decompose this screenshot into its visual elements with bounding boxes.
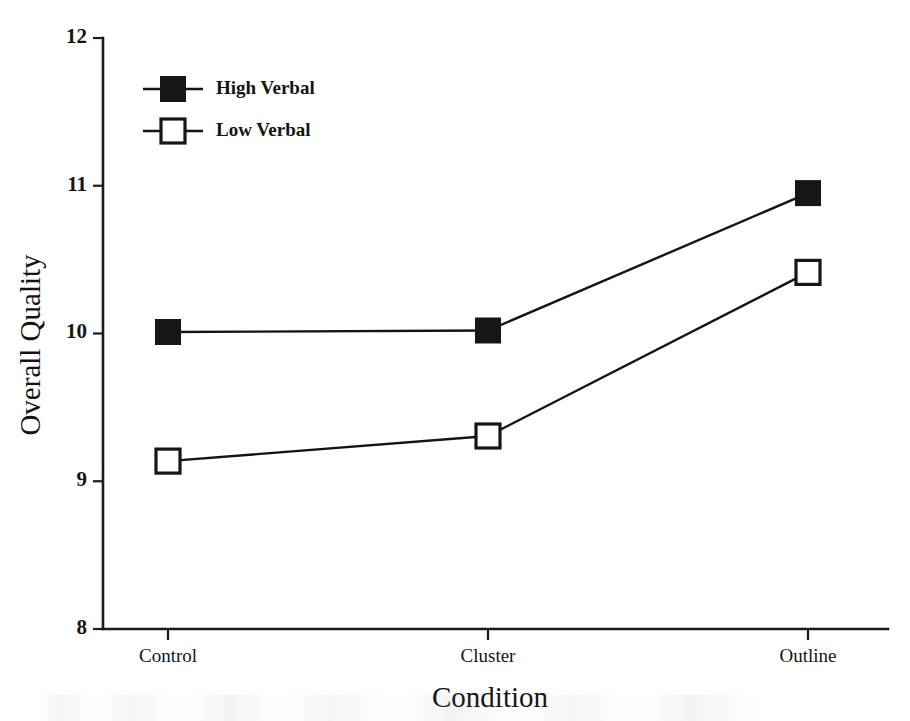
x-tick-label-outline: Outline xyxy=(780,645,837,666)
y-axis-title: Overall Quality xyxy=(14,254,46,436)
data-point-high-verbal-outline xyxy=(796,181,820,205)
chart-legend: High Verbal Low Verbal xyxy=(143,77,315,143)
x-tick-label-control: Control xyxy=(139,645,197,666)
data-point-low-verbal-cluster xyxy=(476,424,500,448)
data-point-low-verbal-outline xyxy=(796,260,820,284)
chart-figure: 12 11 10 9 8 Control Cluster Outline Con… xyxy=(0,0,910,721)
y-tick-label-12: 12 xyxy=(66,24,87,48)
legend-entry-low-verbal: Low Verbal xyxy=(143,119,311,143)
legend-marker-open-square xyxy=(161,119,185,143)
y-tick-label-11: 11 xyxy=(67,172,87,196)
y-tick-label-9: 9 xyxy=(77,467,88,491)
data-point-high-verbal-control xyxy=(156,320,180,344)
y-tick-label-10: 10 xyxy=(66,319,87,343)
data-point-low-verbal-control xyxy=(156,449,180,473)
legend-label-low-verbal: Low Verbal xyxy=(216,119,311,140)
x-axis-title: Condition xyxy=(432,681,549,713)
x-tick-label-cluster: Cluster xyxy=(461,645,517,666)
series-line-high-verbal xyxy=(168,193,808,332)
legend-entry-high-verbal: High Verbal xyxy=(143,77,315,101)
legend-label-high-verbal: High Verbal xyxy=(216,77,315,98)
data-point-high-verbal-cluster xyxy=(476,319,500,343)
line-chart: 12 11 10 9 8 Control Cluster Outline Con… xyxy=(0,0,910,721)
legend-marker-filled-square xyxy=(161,77,185,101)
y-tick-label-8: 8 xyxy=(77,615,88,639)
